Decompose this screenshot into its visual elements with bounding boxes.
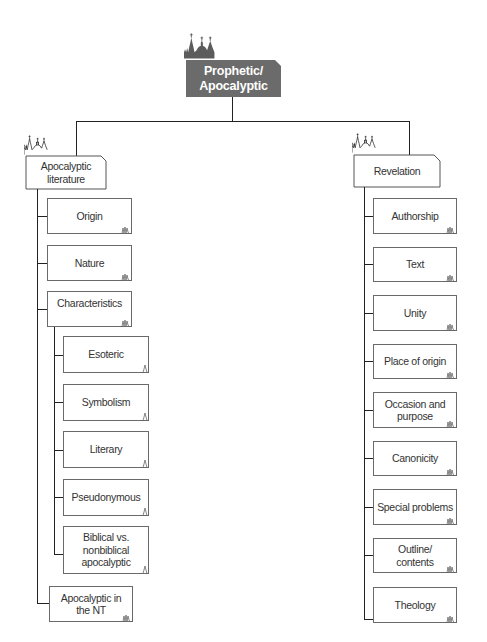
node-canonicity[interactable]: Canonicity (373, 441, 457, 476)
tick (364, 507, 373, 508)
node-apocalyptic-in-the-nt[interactable]: Apocalyptic in the NT (49, 586, 133, 622)
characteristics-trunk (54, 327, 55, 555)
scroll-tail-icon (140, 412, 149, 421)
church-skyline-icon (184, 30, 226, 62)
node-label-line1: Apocalyptic in (61, 592, 122, 605)
tick (364, 555, 373, 556)
node-outline-contents[interactable]: Outline/ contents (373, 538, 457, 573)
scroll-tail-icon (443, 370, 457, 379)
tick (37, 216, 47, 217)
node-symbolism[interactable]: Symbolism (63, 384, 149, 421)
node-label: Special problems (375, 501, 455, 514)
tick (37, 603, 49, 604)
church-skyline-icon (352, 131, 384, 155)
scroll-tail-icon (118, 272, 132, 281)
node-label: Symbolism (74, 396, 139, 409)
branch-label-line2: literature (47, 173, 85, 186)
node-label: Canonicity (384, 452, 446, 465)
root-node-prophetic-apocalyptic[interactable]: Prophetic/ Apocalyptic (183, 30, 283, 98)
node-label: Literary (82, 443, 131, 456)
tick (364, 216, 373, 217)
scroll-tail-icon (443, 614, 457, 623)
node-label: Unity (396, 307, 434, 320)
node-biblical-vs-nonbiblical-apocalyptic[interactable]: Biblical vs. nonbiblical apocalyptic (63, 526, 149, 574)
scroll-tail-icon (118, 318, 132, 327)
node-pseudonymous[interactable]: Pseudonymous (63, 479, 149, 516)
tick (54, 355, 63, 356)
node-nature[interactable]: Nature (47, 245, 132, 281)
tick (54, 450, 63, 451)
branch-label: Revelation (374, 165, 421, 178)
node-label: Characteristics (49, 297, 130, 310)
tick (364, 264, 373, 265)
node-unity[interactable]: Unity (373, 295, 457, 331)
node-label: Nature (67, 257, 113, 270)
scroll-tail-icon (443, 419, 457, 428)
node-label: Esoteric (80, 348, 132, 361)
tick (54, 402, 63, 403)
tick (54, 554, 63, 555)
node-label-line2: purpose (397, 410, 433, 423)
scroll-tail-icon (443, 564, 457, 573)
node-label: Theology (387, 599, 444, 612)
scroll-tail-icon (443, 225, 457, 234)
scroll-tail-icon (118, 225, 132, 234)
node-text[interactable]: Text (373, 247, 457, 282)
node-label: Origin (68, 210, 110, 223)
scroll-tail-icon (140, 459, 149, 468)
root-label-line1: Prophetic/ (204, 64, 263, 79)
node-esoteric[interactable]: Esoteric (63, 336, 149, 373)
tick (364, 361, 373, 362)
scroll-tail-icon (140, 507, 149, 516)
node-theology[interactable]: Theology (373, 587, 457, 623)
church-skyline-icon (24, 133, 56, 157)
node-characteristics[interactable]: Characteristics (47, 291, 132, 327)
scroll-tail-icon (119, 613, 133, 622)
scroll-tail-icon (443, 467, 457, 476)
scroll-tail-icon (140, 565, 149, 574)
node-place-of-origin[interactable]: Place of origin (373, 344, 457, 379)
connector-root-horizontal (76, 121, 410, 122)
node-label-line2: nonbiblical (83, 544, 129, 557)
tick (54, 497, 63, 498)
node-literary[interactable]: Literary (63, 431, 149, 468)
left-trunk (37, 189, 38, 604)
scroll-tail-icon (140, 364, 149, 373)
node-label: Pseudonymous (69, 491, 144, 504)
node-occasion-and-purpose[interactable]: Occasion and purpose (373, 392, 457, 428)
node-label: Authorship (383, 210, 446, 223)
scroll-tail-icon (443, 516, 457, 525)
tick (37, 263, 47, 264)
branch-node-apocalyptic-literature[interactable]: Apocalyptic literature (24, 133, 108, 190)
node-label-line1: Occasion and (385, 398, 446, 411)
node-label-line1: Biblical vs. (83, 531, 129, 544)
node-origin[interactable]: Origin (47, 198, 132, 234)
root-label-line2: Apocalyptic (199, 79, 268, 94)
scroll-tail-icon (443, 273, 457, 282)
scroll-tail-icon (443, 322, 457, 331)
node-authorship[interactable]: Authorship (373, 198, 457, 234)
tick (364, 410, 373, 411)
tick (37, 309, 47, 310)
branch-node-revelation[interactable]: Revelation (352, 131, 442, 188)
node-special-problems[interactable]: Special problems (373, 489, 457, 525)
branch-label-line1: Apocalyptic (41, 160, 91, 173)
tick (364, 458, 373, 459)
node-label-line2: the NT (76, 604, 106, 617)
node-label-line1: Outline/ (398, 543, 432, 556)
tick (364, 313, 373, 314)
tick (364, 619, 373, 620)
connector-root-down (232, 97, 233, 121)
node-label: Text (398, 258, 432, 271)
node-label: Place of origin (381, 355, 449, 368)
node-label-line3: apocalyptic (81, 556, 130, 569)
node-label-line2: contents (396, 556, 433, 569)
